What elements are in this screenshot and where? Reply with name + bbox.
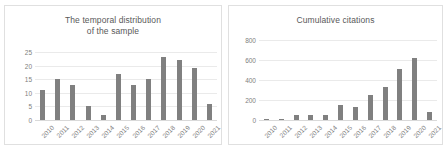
bar-slot: [274, 40, 289, 120]
bar-slot: [289, 40, 304, 120]
bar-slot: [141, 52, 156, 120]
x-label-slot: 2011: [50, 120, 65, 150]
chart-panel-temporal-distribution: The temporal distribution of the sample …: [4, 5, 222, 145]
y-axis-tick-label: 600: [245, 57, 256, 64]
y-axis-tick-label: 25: [25, 49, 32, 56]
x-label-slot: 2013: [303, 120, 318, 150]
x-axis-labels-temporal-distribution: 2010201120122013201420152016201720182019…: [35, 120, 217, 150]
bar: [146, 79, 151, 120]
bar: [383, 87, 388, 120]
x-label-slot: 2011: [274, 120, 289, 150]
chart-panel-cumulative-citations: Cumulative citations 0200400600800 20102…: [228, 5, 443, 145]
x-label-slot: 2018: [378, 120, 393, 150]
bar: [397, 69, 402, 120]
x-label-slot: 2015: [111, 120, 126, 150]
bar-slot: [407, 40, 422, 120]
chart-title-cumulative-citations: Cumulative citations: [229, 15, 442, 26]
x-label-slot: 2018: [156, 120, 171, 150]
bar-slot: [363, 40, 378, 120]
chart-title-temporal-distribution: The temporal distribution of the sample: [5, 15, 221, 37]
bar: [353, 107, 358, 121]
x-label-slot: 2019: [172, 120, 187, 150]
x-label-slot: 2014: [318, 120, 333, 150]
x-label-slot: 2021: [422, 120, 437, 150]
plot-area-cumulative-citations: 0200400600800 20102011201220132014201520…: [259, 40, 437, 120]
x-label-slot: 2021: [202, 120, 217, 150]
bar-slot: [392, 40, 407, 120]
x-axis-tick-label: 2021: [206, 124, 221, 139]
bar-slot: [156, 52, 171, 120]
y-axis-tick-label: 15: [25, 76, 32, 83]
y-axis-tick-label: 800: [245, 37, 256, 44]
bar-slot: [65, 52, 80, 120]
y-axis-tick-label: 5: [28, 103, 32, 110]
bar-slot: [111, 52, 126, 120]
bar-series-cumulative-citations: [259, 40, 437, 120]
bar: [412, 58, 417, 121]
y-axis-tick-label: 400: [245, 77, 256, 84]
x-label-slot: 2016: [126, 120, 141, 150]
two-chart-figure: The temporal distribution of the sample …: [0, 0, 447, 150]
bar: [338, 105, 343, 120]
bar-slot: [318, 40, 333, 120]
x-label-slot: 2015: [333, 120, 348, 150]
bar: [427, 112, 432, 121]
chart-title-line-2: of the sample: [5, 26, 221, 37]
x-label-slot: 2014: [96, 120, 111, 150]
bar-slot: [35, 52, 50, 120]
bar-slot: [303, 40, 318, 120]
bar: [55, 79, 60, 120]
y-axis-tick-label: 10: [25, 89, 32, 96]
x-label-slot: 2010: [35, 120, 50, 150]
bar: [70, 85, 75, 120]
bar-slot: [422, 40, 437, 120]
bar: [368, 95, 373, 120]
bar: [40, 90, 45, 120]
x-axis-tick-label: 2021: [427, 124, 442, 139]
bar-slot: [126, 52, 141, 120]
x-label-slot: 2020: [407, 120, 422, 150]
y-axis-tick-label: 200: [245, 97, 256, 104]
bar: [131, 85, 136, 120]
bar-slot: [187, 52, 202, 120]
x-label-slot: 2010: [259, 120, 274, 150]
bar-slot: [378, 40, 393, 120]
bar: [86, 106, 91, 120]
x-label-slot: 2012: [65, 120, 80, 150]
bar-series-temporal-distribution: [35, 52, 217, 120]
bar-slot: [348, 40, 363, 120]
bar-slot: [96, 52, 111, 120]
x-axis-labels-cumulative-citations: 2010201120122013201420152016201720182019…: [259, 120, 437, 150]
y-axis-tick-label: 0: [28, 117, 32, 124]
x-label-slot: 2017: [141, 120, 156, 150]
plot-area-temporal-distribution: 0510152025 20102011201220132014201520162…: [35, 52, 217, 120]
bar-slot: [202, 52, 217, 120]
bar-slot: [259, 40, 274, 120]
x-label-slot: 2020: [187, 120, 202, 150]
bar-slot: [81, 52, 96, 120]
bar-slot: [333, 40, 348, 120]
x-label-slot: 2012: [289, 120, 304, 150]
x-label-slot: 2013: [81, 120, 96, 150]
bar: [116, 74, 121, 120]
x-label-slot: 2016: [348, 120, 363, 150]
bar: [161, 57, 166, 120]
x-label-slot: 2017: [363, 120, 378, 150]
bar-slot: [50, 52, 65, 120]
chart-title-line-1: Cumulative citations: [229, 15, 442, 26]
bar-slot: [172, 52, 187, 120]
bar: [177, 60, 182, 120]
bar: [192, 68, 197, 120]
y-axis-tick-label: 20: [25, 62, 32, 69]
x-label-slot: 2019: [392, 120, 407, 150]
bar: [207, 104, 212, 120]
chart-title-line-1: The temporal distribution: [5, 15, 221, 26]
y-axis-tick-label: 0: [252, 117, 256, 124]
